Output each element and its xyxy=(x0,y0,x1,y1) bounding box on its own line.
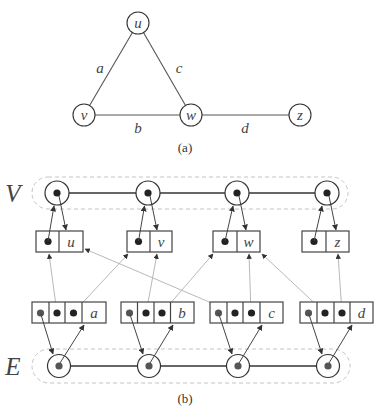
graph-figure-a: u v w z a c b d (a) xyxy=(73,12,311,155)
vertex-box-u: u xyxy=(36,231,83,252)
edge-box-label-a: a xyxy=(90,305,98,321)
vertex-box-v: v xyxy=(127,231,172,252)
vertex-box-label-u: u xyxy=(67,234,75,250)
vertex-label-w: w xyxy=(186,107,196,123)
vertex-position-u xyxy=(45,181,69,205)
vertex-box-label-v: v xyxy=(158,234,165,250)
edge-set-label: E xyxy=(4,353,20,380)
caption-a: (a) xyxy=(178,140,192,155)
edge-label-b: b xyxy=(134,120,142,136)
vertex-label-z: z xyxy=(296,107,303,123)
caption-b: (b) xyxy=(177,391,192,406)
edge-box-label-c: c xyxy=(268,305,275,321)
edge-position-b xyxy=(138,355,161,378)
edge-box-label-b: b xyxy=(178,305,186,321)
vertex-label-u: u xyxy=(134,15,142,31)
vertex-position-z xyxy=(315,181,339,205)
edge-label-a: a xyxy=(96,60,104,76)
vertex-box-label-z: z xyxy=(334,234,341,250)
graph-edge-c xyxy=(138,23,191,115)
edge-position-c xyxy=(227,355,250,378)
vertex-box-label-w: w xyxy=(243,234,253,250)
vertex-position-arrows xyxy=(48,196,336,241)
edge-label-d: d xyxy=(241,120,249,136)
edge-position-d xyxy=(317,355,340,378)
edge-label-c: c xyxy=(176,60,183,76)
edge-box-label-d: d xyxy=(358,305,366,321)
edge-list-figure-b: V u v w z xyxy=(4,177,373,406)
vertex-box-z: z xyxy=(302,231,349,252)
vertex-position-v xyxy=(136,181,160,205)
edge-list-structure-diagram: u v w z a c b d (a) V u v xyxy=(0,0,383,408)
vertex-label-v: v xyxy=(81,107,88,123)
edge-position-a xyxy=(48,355,71,378)
vertex-position-w xyxy=(225,181,249,205)
vertex-box-w: w xyxy=(213,231,260,252)
vertex-set-label: V xyxy=(5,180,23,207)
graph-edge-a xyxy=(84,23,138,115)
